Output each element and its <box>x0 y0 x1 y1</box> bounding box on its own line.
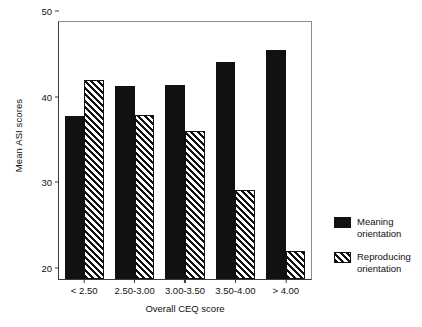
x-axis-tick: 3.50-4.00 <box>215 279 255 296</box>
x-axis-tick: > 4.00 <box>272 279 299 296</box>
x-axis-tick-mark <box>184 279 185 283</box>
bar-group <box>65 22 104 279</box>
bar-reproducing <box>286 251 306 279</box>
y-axis-tick: 20 <box>41 263 59 274</box>
y-axis-tick: 50 <box>41 6 59 17</box>
bar-group <box>115 22 154 279</box>
y-axis-tick-label: 50 <box>41 6 55 17</box>
x-axis-tick-mark <box>134 279 135 283</box>
x-axis-tick: 2.50-3.00 <box>115 279 155 296</box>
bar-meaning <box>266 50 286 279</box>
legend-swatch-meaning <box>334 217 351 228</box>
x-axis-tick: < 2.50 <box>71 279 98 296</box>
bar-reproducing <box>185 131 205 279</box>
x-axis-tick-mark <box>235 279 236 283</box>
y-axis-tick-label: 40 <box>41 91 55 102</box>
bar-meaning <box>115 86 135 279</box>
bar-group <box>165 22 204 279</box>
legend-item: Reproducingorientation <box>334 251 422 274</box>
x-axis-tick-label: 3.00-3.50 <box>165 285 205 296</box>
x-axis-tick-label: 2.50-3.00 <box>115 285 155 296</box>
x-axis-tick-label: > 4.00 <box>272 285 299 296</box>
x-axis-tick-mark <box>84 279 85 283</box>
bar-reproducing <box>84 80 104 279</box>
bar-series-container <box>59 22 311 279</box>
x-axis-tick-label: 3.50-4.00 <box>215 285 255 296</box>
bar-group <box>266 22 305 279</box>
x-axis-tick-mark <box>285 279 286 283</box>
legend-item: Meaningorientation <box>334 216 422 239</box>
legend-swatch-reproducing <box>334 252 351 263</box>
bar-reproducing <box>135 115 155 279</box>
x-axis-tick-label: < 2.50 <box>71 285 98 296</box>
legend-label: Reproducingorientation <box>357 251 411 274</box>
y-axis-tick-label: 20 <box>41 263 55 274</box>
plot-area: 20304050 < 2.502.50-3.003.00-3.503.50-4.… <box>58 21 312 280</box>
bar-chart-figure: Mean ASI scores 20304050 < 2.502.50-3.00… <box>0 0 422 327</box>
bar-reproducing <box>235 190 255 279</box>
x-axis-tick: 3.00-3.50 <box>165 279 205 296</box>
y-axis-tick: 40 <box>41 91 59 102</box>
y-axis-tick: 30 <box>41 177 59 188</box>
x-axis-title: Overall CEQ score <box>58 303 312 314</box>
y-axis-tick-mark <box>55 10 59 11</box>
legend-label: Meaningorientation <box>357 216 401 239</box>
bar-meaning <box>216 62 236 279</box>
chart-legend: MeaningorientationReproducingorientation <box>334 216 422 286</box>
bar-meaning <box>165 85 185 279</box>
y-axis-title: Mean ASI scores <box>13 76 24 196</box>
bar-group <box>216 22 255 279</box>
bar-meaning <box>65 116 85 279</box>
y-axis-tick-label: 30 <box>41 177 55 188</box>
